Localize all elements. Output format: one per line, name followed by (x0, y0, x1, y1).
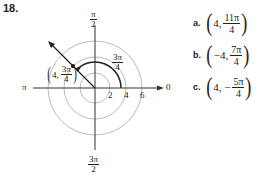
point-label: ( 4, 3π 4 ) (46, 64, 78, 85)
answer-c: c. ( 4, − 5π 4 ) (193, 74, 253, 100)
label-pi: π (22, 82, 27, 92)
label-3pi-over-2: 3π 2 (88, 155, 99, 174)
angle-label: 3π 4 (112, 53, 123, 72)
label-zero: 0 (166, 82, 171, 92)
tick-2: 2 (108, 90, 113, 100)
label-pi-over-2: π 2 (90, 10, 97, 29)
tick-6: 6 (140, 90, 145, 100)
tick-4: 4 (124, 90, 129, 100)
answer-a: a. ( 4, 11π 4 ) (193, 10, 249, 36)
answer-b: b. ( −4, 7π 4 ) (193, 42, 251, 68)
axis-arrow-icon (157, 86, 164, 91)
